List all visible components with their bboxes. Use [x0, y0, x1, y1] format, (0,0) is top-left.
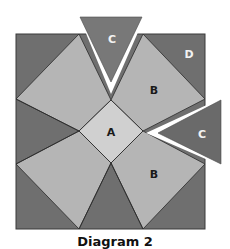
- label-b-bottom: B: [150, 168, 158, 181]
- label-c-right: C: [198, 128, 206, 141]
- diagram-caption: Diagram 2: [0, 234, 230, 249]
- label-c-top: C: [108, 33, 116, 46]
- label-b-top: B: [150, 84, 158, 97]
- label-a: A: [107, 126, 116, 139]
- label-d: D: [184, 48, 193, 61]
